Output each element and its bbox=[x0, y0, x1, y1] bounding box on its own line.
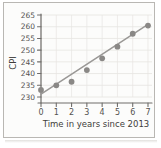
y-tick-label: 265 bbox=[21, 11, 36, 20]
y-tick-label: 255 bbox=[21, 34, 36, 43]
y-tick-label: 240 bbox=[21, 69, 36, 78]
x-tick-label: 7 bbox=[145, 108, 150, 117]
y-tick-labels: 230235240245250255260265 bbox=[21, 11, 36, 102]
scatter-plot-svg: 230235240245250255260265 01234567 CPI Ti… bbox=[0, 0, 161, 148]
x-tick-label: 1 bbox=[54, 108, 59, 117]
data-point bbox=[84, 67, 90, 73]
data-point bbox=[38, 87, 44, 93]
y-axis-title: CPI bbox=[8, 56, 18, 70]
y-tick-label: 245 bbox=[21, 58, 36, 67]
data-points bbox=[38, 23, 151, 93]
data-point bbox=[53, 82, 59, 88]
x-tick-label: 2 bbox=[69, 108, 74, 117]
data-point bbox=[130, 31, 136, 37]
data-point bbox=[115, 44, 121, 50]
x-tick-label: 6 bbox=[130, 108, 135, 117]
y-tick-label: 260 bbox=[21, 22, 36, 31]
x-tick-label: 0 bbox=[38, 108, 43, 117]
x-tick-label: 5 bbox=[115, 108, 120, 117]
y-tick-label: 235 bbox=[21, 81, 36, 90]
data-point bbox=[145, 23, 151, 29]
data-point bbox=[69, 79, 75, 85]
chart-figure: 230235240245250255260265 01234567 CPI Ti… bbox=[0, 0, 161, 148]
x-tick-labels: 01234567 bbox=[38, 108, 150, 117]
x-tick-label: 4 bbox=[100, 108, 105, 117]
data-point bbox=[99, 55, 105, 61]
y-tick-label: 250 bbox=[21, 46, 36, 55]
x-tick-label: 3 bbox=[84, 108, 89, 117]
plot-area: 230235240245250255260265 01234567 CPI Ti… bbox=[0, 0, 161, 148]
y-tick-label: 230 bbox=[21, 93, 36, 102]
x-axis-title: Time in years since 2013 bbox=[42, 119, 149, 129]
